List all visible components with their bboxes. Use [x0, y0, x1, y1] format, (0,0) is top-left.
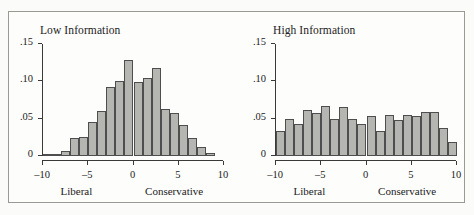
figure-frame: Low Information 0.05.10.15 –10–50510 Lib… — [8, 11, 465, 203]
x-tick — [366, 161, 367, 165]
x-tick-label: –5 — [82, 169, 93, 180]
y-tick: 0 — [38, 155, 42, 156]
x-tick — [411, 161, 412, 165]
histogram-bar — [312, 113, 321, 156]
histogram-bar — [188, 138, 197, 156]
x-tick — [320, 161, 321, 165]
histogram-bar — [161, 109, 170, 156]
y-tick-label: .05 — [253, 111, 266, 122]
x-tick-label: 10 — [218, 169, 229, 180]
pole-label: Conservative — [145, 185, 203, 197]
histogram-bar — [170, 113, 179, 156]
histogram-bar — [376, 131, 385, 156]
y-tick: .10 — [271, 80, 275, 81]
panel-title-high-information: High Information — [273, 24, 355, 36]
x-tick-label: 10 — [451, 169, 462, 180]
bars-high-information — [276, 44, 457, 156]
histogram-bar — [394, 120, 403, 156]
y-tick-label: .10 — [20, 73, 33, 84]
histogram-bar — [448, 142, 457, 156]
histogram-bar — [285, 119, 294, 156]
x-tick — [456, 161, 457, 165]
x-tick — [178, 161, 179, 165]
histogram-bar — [206, 153, 215, 156]
bars-low-information — [43, 44, 224, 156]
histogram-bar — [303, 110, 312, 156]
x-tick-label: –10 — [34, 169, 50, 180]
x-tick — [223, 161, 224, 165]
histogram-bar — [106, 87, 115, 156]
x-tick-label: 0 — [363, 169, 368, 180]
histogram-bar — [430, 112, 439, 156]
histogram-bar — [152, 68, 161, 156]
x-tick-label: 0 — [130, 169, 135, 180]
x-tick — [133, 161, 134, 165]
histogram-bar — [321, 106, 330, 156]
x-tick — [87, 161, 88, 165]
y-tick-label: .05 — [20, 111, 33, 122]
pole-label: Liberal — [60, 185, 92, 197]
x-tick-label: –5 — [315, 169, 326, 180]
histogram-bar — [134, 82, 143, 156]
y-tick: .05 — [271, 118, 275, 119]
panel-title-low-information: Low Information — [40, 24, 120, 36]
panel-low-information: Low Information 0.05.10.15 –10–50510 Lib… — [9, 12, 237, 202]
y-tick: .10 — [38, 80, 42, 81]
histogram-bar — [276, 131, 285, 156]
histogram-bar — [52, 154, 61, 156]
histogram-bar — [115, 81, 124, 156]
histogram-bar — [79, 137, 88, 156]
histogram-bar — [348, 119, 357, 156]
plot-area-high-information: 0.05.10.15 –10–50510 LiberalConservative — [275, 44, 456, 156]
histogram-bar — [143, 78, 152, 156]
pole-label: Conservative — [378, 185, 436, 197]
y-tick-label: .10 — [253, 73, 266, 84]
y-tick: 0 — [271, 155, 275, 156]
plot-area-low-information: 0.05.10.15 –10–50510 LiberalConservative — [42, 44, 223, 156]
y-tick-label: .15 — [253, 36, 266, 47]
histogram-bar — [439, 128, 448, 156]
x-tick — [42, 161, 43, 165]
histogram-bar — [294, 124, 303, 156]
y-tick: .15 — [271, 43, 275, 44]
histogram-bar — [124, 60, 133, 156]
x-tick — [275, 161, 276, 165]
x-tick-label: –10 — [267, 169, 283, 180]
histogram-bar — [357, 124, 366, 156]
histogram-bar — [61, 151, 70, 156]
y-tick-label: 0 — [261, 148, 266, 159]
histogram-bar — [421, 112, 430, 156]
histogram-bar — [179, 125, 188, 156]
pole-label: Liberal — [293, 185, 325, 197]
histogram-bar — [412, 116, 421, 156]
histogram-bar — [70, 138, 79, 156]
histogram-bar — [339, 107, 348, 156]
histogram-bar — [88, 122, 97, 156]
histogram-bar — [385, 115, 394, 156]
y-tick: .15 — [38, 43, 42, 44]
histogram-bar — [197, 147, 206, 156]
x-tick-label: 5 — [175, 169, 180, 180]
x-tick-label: 5 — [408, 169, 413, 180]
y-tick-label: 0 — [28, 148, 33, 159]
figure: Low Information 0.05.10.15 –10–50510 Lib… — [0, 0, 474, 215]
histogram-bar — [367, 116, 376, 156]
panel-high-information: High Information 0.05.10.15 –10–50510 Li… — [237, 12, 466, 202]
y-tick-label: .15 — [20, 36, 33, 47]
histogram-bar — [43, 154, 52, 156]
y-tick: .05 — [38, 118, 42, 119]
histogram-bar — [97, 111, 106, 156]
histogram-bar — [330, 119, 339, 156]
histogram-bar — [403, 115, 412, 156]
